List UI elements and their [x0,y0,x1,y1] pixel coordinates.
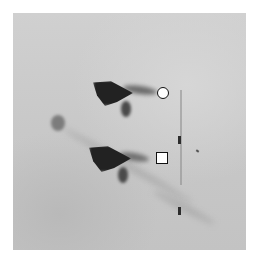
small-dot [196,149,200,152]
autoradiograph-image [13,13,246,250]
circle-marker-icon [157,87,169,99]
reference-mark-lower [178,207,181,215]
reference-mark-upper [178,136,181,144]
upper-spot-drip [121,101,131,117]
diagonal-streak [62,125,195,205]
square-marker-icon [156,152,168,164]
diagonal-streak-lower [152,188,217,226]
left-minor-spot [51,115,65,131]
lower-spot-drip [118,167,128,183]
